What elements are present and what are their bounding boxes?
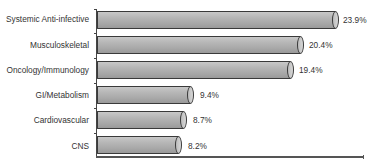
y-axis-tick	[94, 133, 97, 134]
bar-cap	[332, 11, 339, 29]
bar-cap	[287, 61, 294, 79]
x-axis-tick	[363, 155, 364, 159]
value-label: 23.9%	[343, 15, 367, 25]
horizontal-bar-chart: Systemic Anti-infective 23.9% Musculoske…	[0, 0, 372, 166]
bar-oncology-immunology	[97, 61, 290, 79]
bar-systemic-anti-infective	[97, 11, 335, 29]
category-label: Oncology/Immunology	[6, 65, 89, 75]
bar-cap	[180, 111, 187, 129]
value-label: 19.4%	[299, 65, 323, 75]
y-axis-tick	[94, 58, 97, 59]
x-axis	[96, 156, 364, 158]
y-axis-tick	[94, 83, 97, 84]
bar-gi-metabolism	[97, 86, 190, 104]
category-label: Musculoskeletal	[30, 40, 89, 50]
value-label: 8.7%	[193, 115, 212, 125]
bar-cap	[175, 136, 182, 154]
y-axis-tick	[94, 33, 97, 34]
category-label: CNS	[71, 141, 89, 151]
category-label: GI/Metabolism	[36, 90, 89, 100]
bar-cap	[187, 86, 194, 104]
value-label: 9.4%	[200, 90, 219, 100]
value-label: 20.4%	[309, 40, 333, 50]
category-label: Cardiovascular	[34, 115, 89, 125]
bar-cap	[297, 36, 304, 54]
y-axis-tick	[94, 108, 97, 109]
bar-cardiovascular	[97, 111, 183, 129]
bar-cns	[97, 136, 178, 154]
value-label: 8.2%	[188, 141, 207, 151]
y-axis-tick	[94, 9, 97, 10]
bar-musculoskeletal	[97, 36, 300, 54]
category-label: Systemic Anti-infective	[6, 14, 89, 24]
